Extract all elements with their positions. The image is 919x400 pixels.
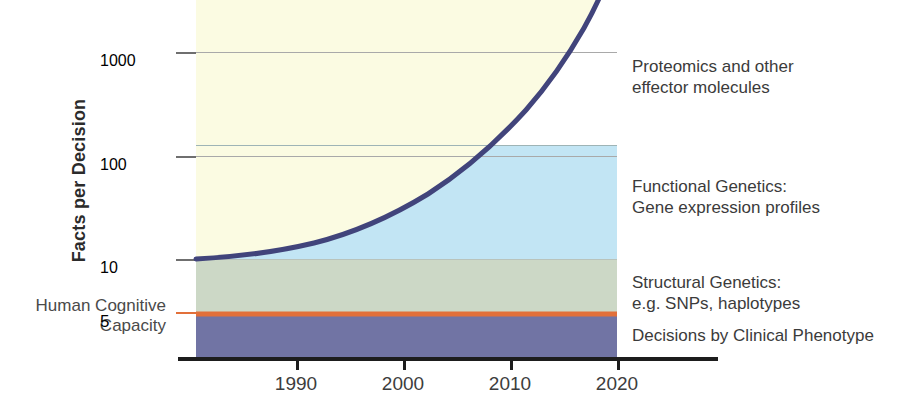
x-axis-line	[178, 357, 718, 361]
y-tick-label-10: 10	[100, 259, 118, 276]
x-tick-label-1990: 1990	[256, 373, 336, 395]
annotation-clinical-phenotype: Decisions by Clinical Phenotype	[632, 325, 874, 346]
x-tick-label-2000: 2000	[363, 373, 443, 395]
x-tick-mark-2010	[510, 357, 513, 370]
band-clinical-phenotype	[196, 316, 617, 357]
annotation-proteomics: Proteomics and other effector molecules	[632, 56, 794, 98]
x-tick-label-2010: 2010	[470, 373, 550, 395]
y-tick-mark-10	[176, 259, 196, 261]
annotation-functional-genetics: Functional Genetics: Gene expression pro…	[632, 176, 820, 218]
y-tick-label-100: 100	[100, 156, 127, 173]
chart-svg	[196, 0, 617, 358]
human-cognitive-capacity-label: Human Cognitive Capacity	[0, 296, 166, 336]
x-tick-mark-2020	[617, 357, 620, 370]
x-tick-label-2020: 2020	[577, 373, 657, 395]
y-tick-label-5: 5	[100, 312, 109, 331]
annotation-structural-genetics: Structural Genetics: e.g. SNPs, haplotyp…	[632, 272, 800, 314]
band-structural-genetics	[196, 259, 617, 313]
x-tick-mark-1990	[296, 357, 299, 370]
x-tick-mark-2000	[403, 357, 406, 370]
chart-figure: Facts per Decision Human Cognitive Capac…	[0, 0, 919, 400]
y-tick-mark-5	[176, 312, 196, 314]
y-tick-mark-1000	[176, 52, 196, 54]
y-axis-title: Facts per Decision	[69, 66, 90, 296]
plot-area	[196, 0, 617, 358]
y-tick-label-1000: 1000	[100, 52, 136, 69]
y-tick-mark-100	[176, 156, 196, 158]
